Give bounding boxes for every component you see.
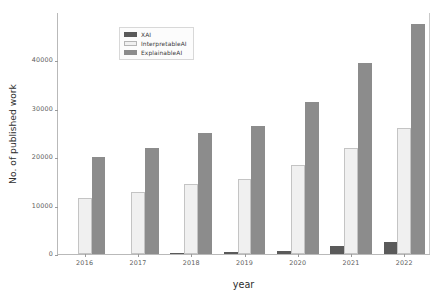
x-tick-label: 2022 bbox=[396, 259, 413, 267]
bar-xai-2021 bbox=[330, 246, 344, 254]
bar-interpretableai-2019 bbox=[238, 179, 252, 254]
bar-explainableai-2018 bbox=[198, 133, 212, 254]
x-tick-mark bbox=[351, 254, 352, 257]
bar-xai-2018 bbox=[170, 253, 184, 254]
y-tick-mark bbox=[55, 207, 58, 208]
x-tick-mark bbox=[85, 254, 86, 257]
y-tick-label: 40000 bbox=[32, 56, 53, 64]
bar-interpretableai-2020 bbox=[291, 165, 305, 254]
bar-interpretableai-2022 bbox=[397, 128, 411, 254]
x-tick-label: 2020 bbox=[289, 259, 306, 267]
legend-swatch-interpretableai bbox=[124, 41, 137, 46]
plot-area: 010000200003000040000 201620172018201920… bbox=[57, 13, 430, 255]
y-tick-label: 30000 bbox=[32, 105, 53, 113]
bar-interpretableai-2017 bbox=[131, 192, 145, 254]
bar-chart-figure: No. of published work 010000200003000040… bbox=[0, 0, 437, 302]
x-tick-mark bbox=[404, 254, 405, 257]
bar-explainableai-2021 bbox=[358, 63, 372, 254]
x-tick-label: 2016 bbox=[76, 259, 93, 267]
x-tick-label: 2018 bbox=[183, 259, 200, 267]
bar-interpretableai-2016 bbox=[78, 198, 92, 254]
x-tick-label: 2019 bbox=[236, 259, 253, 267]
legend-item-xai: XAI bbox=[124, 31, 187, 38]
bar-explainableai-2022 bbox=[411, 24, 425, 254]
legend-swatch-xai bbox=[124, 32, 137, 37]
bar-xai-2019 bbox=[224, 252, 238, 254]
bar-interpretableai-2021 bbox=[344, 148, 358, 254]
bar-interpretableai-2018 bbox=[184, 184, 198, 254]
x-axis-title: year bbox=[57, 279, 430, 290]
y-axis-title-wrap: No. of published work bbox=[14, 13, 15, 255]
y-tick-mark bbox=[55, 255, 58, 256]
x-tick-mark bbox=[245, 254, 246, 257]
y-tick-label: 10000 bbox=[32, 202, 53, 210]
y-tick-mark bbox=[55, 110, 58, 111]
x-tick-label: 2017 bbox=[129, 259, 146, 267]
legend-label-interpretableai: InterpretableAI bbox=[141, 41, 187, 47]
bar-explainableai-2017 bbox=[145, 148, 159, 254]
bar-xai-2022 bbox=[384, 242, 398, 254]
legend-item-interpretableai: InterpretableAI bbox=[124, 40, 187, 47]
chart-legend: XAI InterpretableAI ExplainableAI bbox=[119, 27, 194, 60]
bar-explainableai-2016 bbox=[92, 157, 106, 254]
legend-label-xai: XAI bbox=[141, 32, 151, 38]
x-tick-mark bbox=[298, 254, 299, 257]
x-tick-mark bbox=[138, 254, 139, 257]
legend-label-explainableai: ExplainableAI bbox=[141, 50, 182, 56]
x-tick-mark bbox=[191, 254, 192, 257]
bar-xai-2020 bbox=[277, 251, 291, 254]
x-tick-label: 2021 bbox=[343, 259, 360, 267]
bar-explainableai-2019 bbox=[251, 126, 265, 254]
bar-explainableai-2020 bbox=[305, 102, 319, 254]
y-tick-label: 20000 bbox=[32, 153, 53, 161]
y-axis-title: No. of published work bbox=[7, 84, 18, 184]
legend-swatch-explainableai bbox=[124, 50, 137, 55]
legend-item-explainableai: ExplainableAI bbox=[124, 49, 187, 56]
y-tick-mark bbox=[55, 158, 58, 159]
y-tick-mark bbox=[55, 61, 58, 62]
y-tick-label: 0 bbox=[49, 250, 53, 258]
